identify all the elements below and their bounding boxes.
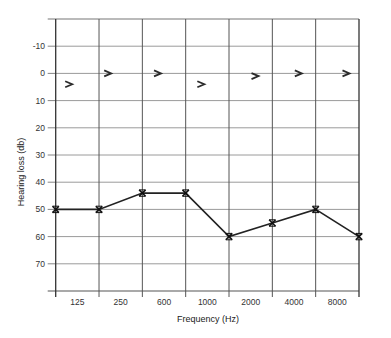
greater-than-marker-icon	[65, 81, 72, 87]
x-tick-label: 8000	[328, 297, 347, 307]
x-axis-title: Frequency (Hz)	[177, 314, 239, 324]
greater-than-marker-icon	[197, 81, 204, 87]
y-tick-label: -10	[33, 41, 46, 51]
x-tick-label: 2000	[241, 297, 260, 307]
x-tick-label: 1000	[198, 297, 217, 307]
audiogram-chart: -10010203040506070 125250600100020004000…	[0, 0, 391, 338]
x-tick-label: 600	[157, 297, 171, 307]
y-tick-label: 20	[36, 123, 46, 133]
y-tick-label: 10	[36, 96, 46, 106]
y-tick-label: 0	[40, 68, 45, 78]
y-tick-label: 40	[36, 177, 46, 187]
y-tick-label: 70	[36, 259, 46, 269]
y-tick-label: 50	[36, 204, 46, 214]
chart-grid	[48, 19, 359, 297]
x-tick-label: 4000	[285, 297, 304, 307]
y-axis-tick-labels: -10010203040506070	[33, 41, 46, 269]
y-tick-label: 60	[36, 232, 46, 242]
greater-than-marker-icon	[252, 73, 259, 79]
x-tick-label: 125	[70, 297, 84, 307]
x-tick-label: 250	[114, 297, 128, 307]
y-tick-label: 30	[36, 150, 46, 160]
x-axis-tick-labels: 1252506001000200040008000	[70, 297, 347, 307]
y-axis-title: Hearing loss (db)	[16, 138, 26, 207]
air-conduction-line	[56, 193, 359, 237]
